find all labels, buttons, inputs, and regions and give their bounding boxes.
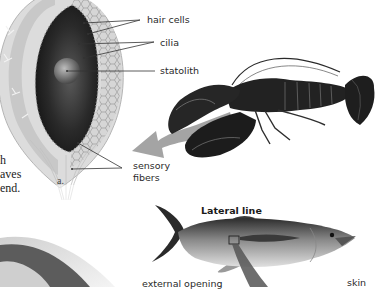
label-external-opening: external opening: [142, 278, 223, 289]
label-sensory-fibers-line2: fibers: [133, 172, 160, 183]
body-text-line-3: end.: [0, 181, 20, 195]
panel-letter-a: a.: [57, 175, 64, 186]
body-text-line-1: h: [0, 153, 6, 167]
label-cilia: cilia: [160, 37, 179, 48]
label-hair-cells: hair cells: [147, 14, 190, 25]
body-text-line-2: aves: [0, 167, 21, 181]
label-skin: skin: [347, 277, 366, 288]
fish-title-lateral-line: Lateral line: [201, 205, 262, 216]
lateral-line-cross-section: [0, 237, 115, 287]
label-sensory-fibers-line1: sensory: [133, 160, 170, 171]
fish-illustration: [152, 205, 356, 287]
label-statolith: statolith: [160, 65, 199, 76]
lobster-illustration: [168, 58, 374, 157]
